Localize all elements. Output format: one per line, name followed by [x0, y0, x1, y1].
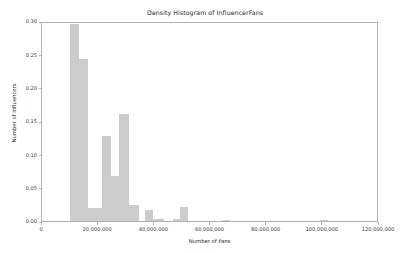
y-tick-label: 0.00	[26, 218, 37, 224]
histogram-bar	[129, 205, 139, 221]
histogram-bar	[145, 210, 153, 221]
y-tick-label: 0.20	[26, 85, 37, 91]
histogram-bar	[119, 114, 129, 221]
density-histogram-figure: Density Histogram of InfluencerFans Numb…	[0, 0, 410, 253]
histogram-bar	[111, 176, 119, 221]
x-tick-mark	[378, 222, 379, 225]
x-axis: 020,000,00040,000,00060,000,00080,000,00…	[41, 222, 378, 252]
histogram-bar	[70, 24, 78, 221]
histogram-bar	[320, 220, 328, 221]
x-tick-mark	[265, 222, 266, 225]
y-tick-label: 0.05	[26, 185, 37, 191]
y-tick-label: 0.30	[26, 18, 37, 24]
y-tick-label: 0.10	[26, 152, 37, 158]
x-tick-label: 0	[39, 226, 42, 232]
x-axis-label: Number of Fans	[41, 238, 378, 244]
x-tick-mark	[41, 222, 42, 225]
histogram-bars	[42, 23, 377, 221]
chart-title: Density Histogram of InfluencerFans	[0, 9, 410, 16]
plot-area	[41, 22, 378, 222]
x-tick-label: 20,000,000	[83, 226, 112, 232]
histogram-bar	[88, 208, 102, 221]
x-tick-mark	[97, 222, 98, 225]
histogram-bar	[222, 220, 230, 221]
histogram-bar	[79, 59, 89, 221]
x-tick-mark	[321, 222, 322, 225]
histogram-bar	[173, 219, 180, 221]
x-tick-label: 40,000,000	[139, 226, 168, 232]
y-axis: 0.000.050.100.150.200.250.30	[0, 22, 41, 222]
x-tick-label: 120,000,000	[362, 226, 394, 232]
histogram-bar	[180, 207, 188, 221]
x-tick-mark	[209, 222, 210, 225]
y-tick-label: 0.15	[26, 118, 37, 124]
x-tick-label: 60,000,000	[195, 226, 224, 232]
x-tick-mark	[153, 222, 154, 225]
histogram-bar	[102, 136, 110, 221]
y-tick-label: 0.25	[26, 52, 37, 58]
histogram-bar	[153, 219, 164, 221]
x-tick-label: 100,000,000	[306, 226, 338, 232]
x-tick-label: 80,000,000	[251, 226, 280, 232]
